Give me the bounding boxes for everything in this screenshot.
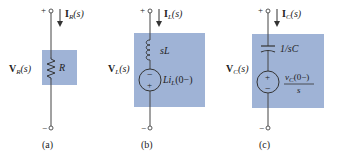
caption-c: (c) xyxy=(259,140,270,150)
capacitor-label: 1/sC xyxy=(280,44,298,54)
voltage-label-b: VL(s) xyxy=(108,64,130,76)
source-label-b: LiL(0−) xyxy=(163,75,193,87)
voltage-label-a: VR(s) xyxy=(9,64,31,76)
source-label-c-denominator: s xyxy=(297,86,301,95)
voltage-label-c: VC(s) xyxy=(226,64,248,76)
caption-a: (a) xyxy=(42,140,53,150)
terminal-minus-b: − xyxy=(141,124,146,133)
source-top-sign-c: + xyxy=(265,73,270,82)
resistor-label: R xyxy=(59,63,65,73)
source-top-sign-b: − xyxy=(147,70,153,80)
current-label-a: IR(s) xyxy=(65,9,84,21)
source-bottom-sign-c: − xyxy=(265,84,271,94)
terminal-plus-c: + xyxy=(258,6,263,15)
terminal-minus-a: − xyxy=(42,124,47,133)
current-arrow-icon-c xyxy=(274,9,280,27)
current-label-b: IL(s) xyxy=(164,9,182,21)
current-label-c: IC(s) xyxy=(282,9,301,21)
current-arrow-icon-a xyxy=(57,9,63,27)
source-bottom-sign-b: + xyxy=(147,81,152,90)
caption-b: (b) xyxy=(141,140,153,150)
terminal-c-bottom xyxy=(266,126,270,130)
terminal-b-top xyxy=(148,9,152,13)
terminal-a-bottom xyxy=(49,126,53,130)
terminal-a-top xyxy=(49,9,53,13)
terminal-c-top xyxy=(266,9,270,13)
inductor-label: sL xyxy=(160,46,169,56)
terminal-b-bottom xyxy=(148,126,152,130)
terminal-plus-a: + xyxy=(41,6,46,15)
terminal-minus-c: − xyxy=(259,124,264,133)
terminal-plus-b: + xyxy=(140,6,145,15)
current-arrow-icon-b xyxy=(156,9,162,27)
source-label-c-numerator: vC(0−) xyxy=(285,73,309,84)
